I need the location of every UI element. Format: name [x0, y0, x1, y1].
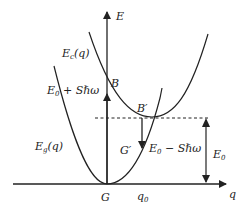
point-b-prime-label: B′	[136, 102, 148, 115]
configuration-coordinate-diagram: E q Ec(q) Eg(q) E0 + Sℏω B B′ G′ E0 − Sℏ…	[0, 0, 240, 213]
emission-energy-label: E0 − Sℏω	[148, 142, 201, 156]
e-axis-label: E	[115, 10, 124, 23]
e0-label: E0	[212, 148, 226, 162]
q0-label: q0	[137, 190, 149, 204]
point-g-label: G	[101, 191, 110, 204]
excited-curve-label: Ec(q)	[61, 47, 90, 61]
point-b-label: B	[110, 77, 119, 90]
e0-arrow-top-head	[202, 118, 210, 127]
point-g-prime-label: G′	[120, 144, 132, 157]
absorption-energy-label: E0 + Sℏω	[46, 84, 99, 98]
ground-curve-label: Eg(q)	[34, 140, 63, 154]
q-axis-label: q	[229, 188, 236, 201]
